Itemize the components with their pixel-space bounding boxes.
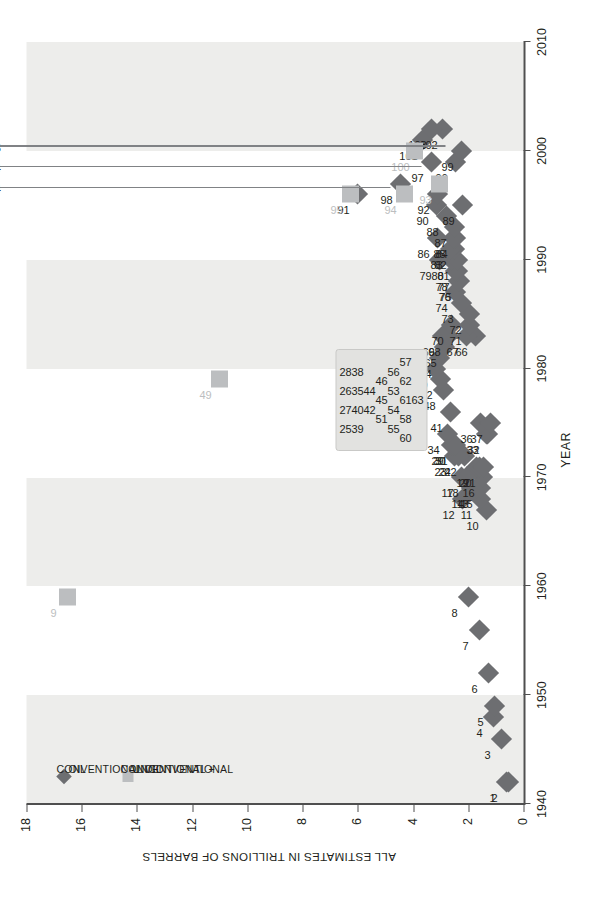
y-axis-title: ALL ESTIMATES IN TRILLIONS OF BARRELS [20,851,517,864]
data-point-label: 6 [471,683,477,695]
x-tick-label: 1990 [534,237,548,283]
callout-id: 38 [350,366,364,378]
x-axis-title: YEAR [558,0,572,900]
data-point-label: 99 [441,161,453,173]
legend-label: OIL [68,764,86,776]
data-point-square [211,371,228,388]
y-tick [26,804,27,812]
y-tick [81,804,82,812]
x-tick [523,476,530,477]
x-axis-line [523,42,525,804]
data-point-label: 93 [419,194,431,206]
figure-stage: 1940195019601970198019902000201002468101… [0,0,609,900]
data-point-label: 94 [384,204,396,216]
data-point-label: 71 [449,335,461,347]
data-point-label: 3 [484,749,490,761]
plot-area [26,42,523,804]
y-tick [413,804,414,812]
data-point-label: 87 [434,237,446,249]
y-tick-label: 12 [184,818,198,840]
data-point-label: 88 [426,226,438,238]
data-point-label: 24 [438,466,450,478]
data-point-label: 72 [449,324,461,336]
data-point-label: 81 [437,270,449,282]
x-tick-label: 1980 [534,346,548,392]
x-tick [523,585,530,586]
data-point-label: 78 [435,281,447,293]
callout-id: 39 [350,423,364,435]
y-tick [247,804,248,812]
y-tick [192,804,193,812]
y-tick-label: 14 [128,818,142,840]
x-tick [523,368,530,369]
y-tick-label: 6 [349,818,363,840]
data-point-label: 90 [416,215,428,227]
annotation-leader-line [0,187,390,188]
callout-id: 63 [410,394,424,406]
data-point-label: 49 [199,389,211,401]
rotated-figure: 1940195019601970198019902000201002468101… [0,0,609,900]
x-tick-label: 2000 [534,128,548,174]
data-point-square [342,186,359,203]
x-tick-label: 1950 [534,672,548,718]
y-tick [302,804,303,812]
y-tick [136,804,137,812]
legend-item-unconventional: CONVENTIONAL + UNCONVENTIONAL OIL [120,766,133,782]
data-point-label: 86 [417,248,429,260]
annotation-leader-line [0,166,421,167]
data-point-label: 97 [411,172,423,184]
y-tick-label: 0 [515,818,529,840]
data-point-label: 18 [446,487,458,499]
decade-band [26,695,523,804]
data-point-label: 4 [476,727,482,739]
y-tick-label: 10 [239,818,253,840]
data-point-label: 92 [417,204,429,216]
data-point-label: 9 [50,607,56,619]
data-point-label: 67 [446,346,458,358]
data-point-label: 83 [430,259,442,271]
y-tick-label: 4 [405,818,419,840]
data-point-label: 12 [442,509,454,521]
data-point-label: 37 [470,433,482,445]
data-point-label: 31 [435,455,447,467]
y-axis-line [26,803,525,805]
data-point-square [430,175,447,192]
y-tick [357,804,358,812]
data-point-label: 21 [463,477,475,489]
data-point-label: 16 [461,487,473,499]
y-tick-label: 8 [294,818,308,840]
data-point-label: 73 [441,313,453,325]
data-point-label: 95 [330,204,342,216]
callout-row: 63 [411,355,423,445]
callout-id: 60 [398,432,412,444]
data-point-label: 11 [460,509,471,521]
data-point-label: 34 [427,444,439,456]
callout-id: 57 [398,356,412,368]
data-point-label: 15 [460,498,472,510]
x-tick-label: 1970 [534,454,548,500]
y-tick-label: 18 [18,818,32,840]
callout-id: 62 [398,375,412,387]
x-tick [523,694,530,695]
grouped-estimates-callout: 2527262839403538424451454655545356605861… [335,349,427,451]
y-tick [523,804,524,812]
y-tick-label: 2 [460,818,474,840]
data-point-label: 74 [435,302,447,314]
data-point-label: 5 [477,716,483,728]
legend-label: OIL [144,764,162,776]
data-point-label: 89 [442,215,454,227]
data-point-label: 41 [430,422,442,434]
decade-band [26,42,523,151]
data-point-label: 8 [451,607,457,619]
x-tick [523,41,530,42]
annotation-leader-line [0,145,445,146]
data-point-label: 7 [462,640,468,652]
plot-background [26,42,523,804]
y-tick-label: 16 [73,818,87,840]
callout-id: 58 [398,413,412,425]
callout-row: 39403538 [351,355,363,445]
data-point-square [59,589,76,606]
x-tick [523,259,530,260]
y-tick [468,804,469,812]
x-tick-label: 1960 [534,563,548,609]
